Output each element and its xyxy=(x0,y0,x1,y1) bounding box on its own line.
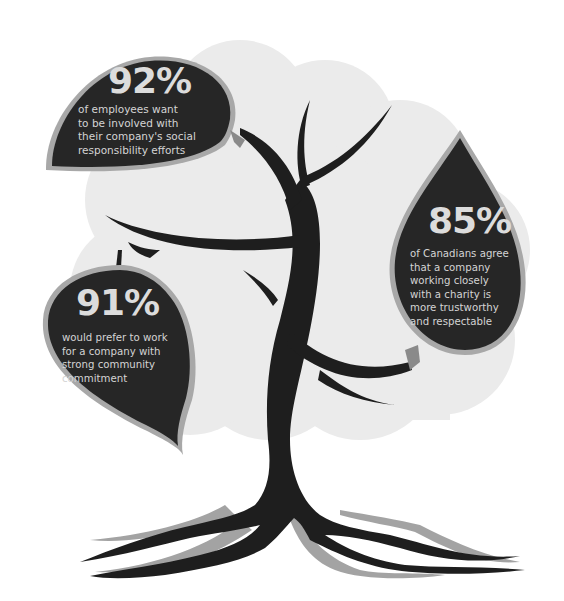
stat-85-text: 85% of Canadians agree that a company wo… xyxy=(410,203,540,328)
stat-description: of Canadians agree that a company workin… xyxy=(410,247,540,328)
stat-91-text: 91% would prefer to work for a company w… xyxy=(62,285,192,385)
stat-description: would prefer to work for a company with … xyxy=(62,331,192,385)
stat-description: of employees want to be involved with th… xyxy=(78,103,238,157)
stat-value: 85% xyxy=(410,203,540,239)
stat-value: 91% xyxy=(62,285,192,321)
stat-92-text: 92% of employees want to be involved wit… xyxy=(78,63,238,157)
stat-value: 92% xyxy=(78,63,238,99)
